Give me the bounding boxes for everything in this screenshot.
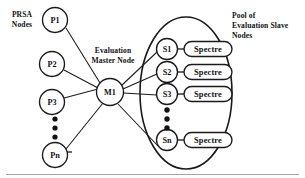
prsa-node-p1[interactable]: P1 — [43, 8, 68, 33]
caption-prsa-nodes: PRSA Nodes — [12, 10, 33, 29]
edge-group-master-to-slaves — [118, 52, 158, 146]
ellipsis-dot — [52, 125, 57, 130]
caption-pool-line3: Nodes — [232, 31, 252, 40]
architecture-diagram: P1 P2 P3 Pn M1 S1 — [0, 0, 305, 178]
caption-pool-line1: Pool of — [232, 11, 256, 20]
master-node-label: M1 — [104, 88, 116, 97]
spectre-label: Spectre — [194, 68, 222, 77]
prsa-node-p3[interactable]: P3 — [40, 90, 65, 115]
slave-node-s1[interactable]: S1 Spectre — [157, 39, 233, 60]
slave-node-sn[interactable]: Sn Spectre — [157, 130, 233, 151]
slave-node-label: S3 — [163, 90, 172, 99]
caption-prsa-line1: PRSA — [12, 10, 33, 19]
ellipsis-dot — [52, 116, 57, 121]
prsa-node-label: P3 — [47, 98, 56, 107]
prsa-node-label: P1 — [50, 16, 59, 25]
ellipsis-dot — [52, 134, 57, 139]
slave-node-s2[interactable]: S2 Spectre — [157, 62, 233, 83]
spectre-label: Spectre — [194, 45, 222, 54]
prsa-node-p2[interactable]: P2 — [40, 52, 65, 77]
caption-pool-line2: Evaluation Slave — [232, 21, 289, 30]
prsa-node-label: P2 — [47, 60, 56, 69]
caption-evaluation-master-node: Evaluation Master Node — [92, 46, 135, 65]
edge-p3-m1 — [64, 89, 98, 98]
edge-pn-m1 — [66, 103, 103, 149]
edge-p2-m1 — [64, 70, 98, 88]
slave-node-s3[interactable]: S3 Spectre — [157, 84, 233, 105]
prsa-ellipsis — [52, 116, 57, 139]
slave-node-label: S2 — [163, 68, 172, 77]
caption-master-line1: Evaluation — [95, 46, 132, 55]
caption-prsa-line2: Nodes — [12, 20, 32, 29]
slave-node-label: Sn — [162, 136, 172, 145]
spectre-label: Spectre — [194, 136, 222, 145]
ellipsis-dot — [164, 107, 169, 112]
prsa-node-label: Pn — [50, 151, 60, 160]
caption-pool-of-evaluation-slave-nodes: Pool of Evaluation Slave Nodes — [232, 11, 289, 40]
diagram-canvas: P1 P2 P3 Pn M1 S1 — [0, 0, 305, 178]
ellipsis-dot — [164, 116, 169, 121]
edge-m1-sn — [118, 104, 158, 146]
slave-node-label: S1 — [163, 45, 172, 54]
spectre-label: Spectre — [194, 90, 222, 99]
evaluation-master-node[interactable]: M1 — [97, 79, 124, 106]
caption-master-line2: Master Node — [92, 56, 135, 65]
slave-ellipsis — [164, 107, 169, 130]
ellipsis-dot — [164, 125, 169, 130]
